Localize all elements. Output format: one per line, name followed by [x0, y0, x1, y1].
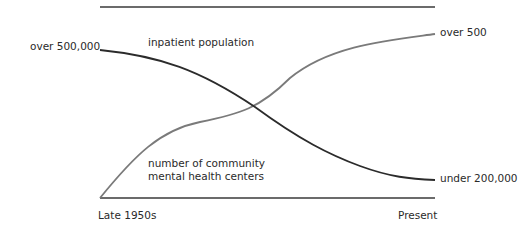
inpatient-series-label: inpatient population — [148, 36, 254, 48]
inpatient-end-label: under 200,000 — [440, 172, 518, 184]
x-axis-start-label: Late 1950s — [98, 209, 156, 221]
x-axis-end-label: Present — [398, 209, 437, 221]
centers-series-label-line1: number of community — [148, 157, 260, 170]
centers-series-label: number of community mental health center… — [148, 157, 260, 183]
centers-series-label-line2: mental health centers — [148, 170, 260, 183]
centers-end-label: over 500 — [440, 26, 487, 38]
inpatient-start-label: over 500,000 — [30, 40, 100, 52]
